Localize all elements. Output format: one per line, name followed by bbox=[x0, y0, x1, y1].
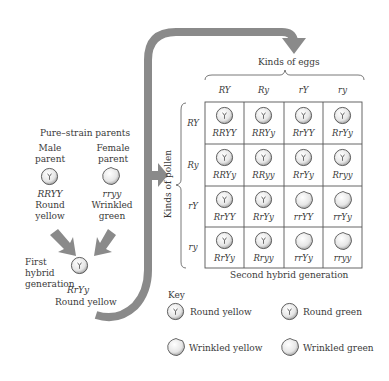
cell-genotype: rryy bbox=[323, 253, 362, 263]
row-header: Ry bbox=[180, 160, 206, 170]
cell-genotype: rrYy bbox=[323, 212, 362, 222]
female-title-line2: parent bbox=[90, 154, 136, 165]
round-pea-icon bbox=[40, 167, 59, 186]
female-parent-label: Female parent bbox=[90, 143, 136, 165]
round-green-pea-icon bbox=[254, 231, 273, 250]
cell-genotype: RRYY bbox=[205, 128, 244, 138]
pollen-label: Kinds of pollen bbox=[163, 150, 174, 218]
round-yellow-pea-icon bbox=[333, 106, 352, 125]
key-title: Key bbox=[168, 290, 185, 301]
cell-genotype: rrYy bbox=[284, 253, 323, 263]
female-genotype: rryy bbox=[86, 189, 138, 200]
female-phenotype-line2: green bbox=[86, 211, 138, 222]
wrinkled-pea-icon bbox=[101, 166, 121, 186]
cell-genotype: RRyy bbox=[244, 170, 283, 180]
cell-genotype: RrYy bbox=[244, 212, 283, 222]
round-green-pea-icon bbox=[333, 148, 352, 167]
row-header: ry bbox=[180, 242, 206, 252]
round-yellow-pea-icon bbox=[294, 148, 313, 167]
eggs-label: Kinds of eggs bbox=[258, 57, 320, 68]
wrinkled-yellow-pea-icon bbox=[333, 190, 353, 210]
parent-arrow-left-icon bbox=[50, 229, 76, 256]
wrinkled-green-pea-icon bbox=[280, 337, 300, 357]
key-item-label: Wrinkled green bbox=[303, 343, 374, 354]
round-green-pea-icon bbox=[280, 302, 299, 321]
first-gen-phenotype: Round yellow bbox=[55, 297, 117, 308]
round-yellow-pea-icon bbox=[215, 190, 234, 209]
male-phenotype-line1: Round bbox=[28, 200, 72, 211]
first-gen-line2: hybrid bbox=[25, 268, 75, 279]
column-header: ry bbox=[323, 85, 362, 95]
key-item-label: Wrinkled yellow bbox=[189, 343, 262, 354]
round-green-pea-icon bbox=[254, 148, 273, 167]
round-yellow-pea-icon bbox=[254, 106, 273, 125]
grid-caption: Second hybrid generation bbox=[230, 270, 348, 281]
cell-genotype: rrYY bbox=[284, 212, 323, 222]
cell-genotype: RrYy bbox=[323, 128, 362, 138]
key-item-label: Round yellow bbox=[190, 307, 252, 318]
cell-genotype: RRYy bbox=[244, 128, 283, 138]
cell-genotype: RrYy bbox=[284, 170, 323, 180]
wrinkled-green-pea-icon bbox=[333, 231, 353, 251]
column-header: Ry bbox=[244, 85, 283, 95]
row-header: rY bbox=[180, 201, 206, 211]
round-yellow-pea-icon bbox=[166, 302, 185, 321]
eggs-brace bbox=[205, 70, 364, 80]
first-gen-genotype: RrYy bbox=[67, 285, 89, 296]
male-parent-info: RRYY Round yellow bbox=[28, 189, 72, 222]
female-title-line1: Female bbox=[90, 143, 136, 154]
wrinkled-yellow-pea-icon bbox=[166, 337, 186, 357]
male-phenotype-line2: yellow bbox=[28, 211, 72, 222]
wrinkled-yellow-pea-icon bbox=[294, 231, 314, 251]
male-title-line1: Male bbox=[30, 143, 70, 154]
round-pea-icon bbox=[70, 256, 89, 275]
male-parent-label: Male parent bbox=[30, 143, 70, 165]
row-header: RY bbox=[180, 118, 206, 128]
cell-genotype: RRYy bbox=[205, 170, 244, 180]
parent-arrow-right-icon bbox=[94, 229, 116, 256]
round-yellow-pea-icon bbox=[254, 190, 273, 209]
column-header: RY bbox=[205, 85, 244, 95]
round-yellow-pea-icon bbox=[294, 106, 313, 125]
first-gen-line1: First bbox=[25, 257, 75, 268]
female-parent-info: rryy Wrinkled green bbox=[86, 189, 138, 222]
wrinkled-yellow-pea-icon bbox=[294, 190, 314, 210]
column-header: rY bbox=[284, 85, 323, 95]
cell-genotype: RrYY bbox=[205, 212, 244, 222]
male-genotype: RRYY bbox=[28, 189, 72, 200]
cell-genotype: Rryy bbox=[323, 170, 362, 180]
key-item-label: Round green bbox=[303, 307, 362, 318]
cell-genotype: RrYY bbox=[284, 128, 323, 138]
round-yellow-pea-icon bbox=[215, 231, 234, 250]
male-title-line2: parent bbox=[30, 154, 70, 165]
cell-genotype: Rryy bbox=[244, 253, 283, 263]
round-yellow-pea-icon bbox=[215, 148, 234, 167]
arrowhead-down-icon bbox=[282, 38, 306, 54]
round-yellow-pea-icon bbox=[215, 106, 234, 125]
parents-heading: Pure–strain parents bbox=[30, 128, 140, 139]
female-phenotype-line1: Wrinkled bbox=[86, 200, 138, 211]
cell-genotype: RrYy bbox=[205, 253, 244, 263]
